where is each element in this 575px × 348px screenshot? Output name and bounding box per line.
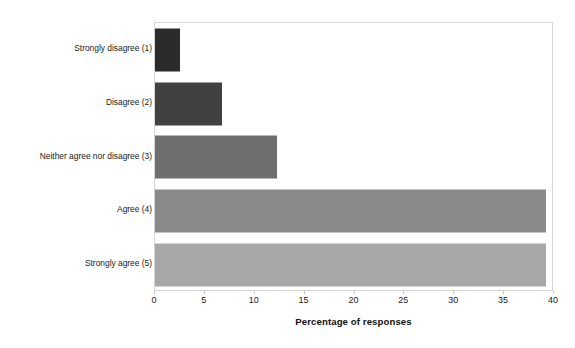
bar-row-3 <box>155 184 552 238</box>
x-tick-mark-1 <box>204 291 205 294</box>
x-tick-mark-6 <box>453 291 454 294</box>
bar-row-2 <box>155 131 552 185</box>
x-tick-mark-3 <box>304 291 305 294</box>
x-tick-label-2: 10 <box>249 295 259 306</box>
x-tick-mark-5 <box>403 291 404 294</box>
x-tick-label-5: 25 <box>398 295 408 306</box>
x-tick-label-7: 35 <box>498 295 508 306</box>
bar-chart: Strongly disagree (1) Disagree (2) Neith… <box>0 0 575 348</box>
y-axis-label-2: Neither agree nor disagree (3) <box>4 130 152 184</box>
bar-row-1 <box>155 77 552 131</box>
x-tick-label-6: 30 <box>448 295 458 306</box>
plot-area <box>154 22 553 291</box>
bar-strongly-agree[interactable] <box>155 244 546 287</box>
x-tick-mark-0 <box>154 291 155 294</box>
x-tick-label-3: 15 <box>299 295 309 306</box>
y-axis-label-0: Strongly disagree (1) <box>4 22 152 76</box>
x-tick-mark-4 <box>354 291 355 294</box>
x-tick-label-0: 0 <box>151 295 156 306</box>
x-axis-title: Percentage of responses <box>154 316 553 327</box>
x-tick-label-4: 20 <box>348 295 358 306</box>
x-tick-mark-7 <box>503 291 504 294</box>
bar-row-0 <box>155 23 552 77</box>
x-tick-mark-2 <box>254 291 255 294</box>
bar-agree[interactable] <box>155 190 546 233</box>
x-tick-mark-8 <box>553 291 554 294</box>
bar-neither[interactable] <box>155 136 277 179</box>
y-axis-label-1: Disagree (2) <box>4 76 152 130</box>
x-axis: 0510152025303540 <box>154 291 553 313</box>
x-tick-label-1: 5 <box>201 295 206 306</box>
y-axis-label-3: Agree (4) <box>4 183 152 237</box>
y-axis-category-labels: Strongly disagree (1) Disagree (2) Neith… <box>0 22 152 291</box>
x-tick-label-8: 40 <box>548 295 558 306</box>
bar-row-4 <box>155 238 552 292</box>
y-axis-label-4: Strongly agree (5) <box>4 237 152 291</box>
bar-disagree[interactable] <box>155 82 222 125</box>
bar-strongly-disagree[interactable] <box>155 28 180 71</box>
